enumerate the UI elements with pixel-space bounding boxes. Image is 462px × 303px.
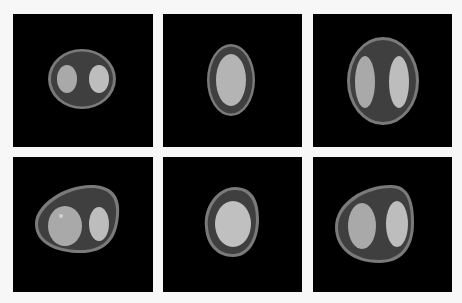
phantom-panel-1: phantom-1 [13,14,153,147]
phantom-image [313,14,452,147]
phantom-image [13,14,153,147]
phantom-panel-4: phantom-4 [13,157,153,292]
phantom-image [163,157,302,292]
phantom-panel-5: phantom-5 [163,157,302,292]
phantom-panel-3: phantom-3 [313,14,452,147]
phantom-image [163,14,302,147]
phantom-panel-6: phantom-6 [313,157,452,292]
phantom-image [13,157,153,292]
phantom-panel-2: phantom-2 [163,14,302,147]
phantom-image [313,157,452,292]
